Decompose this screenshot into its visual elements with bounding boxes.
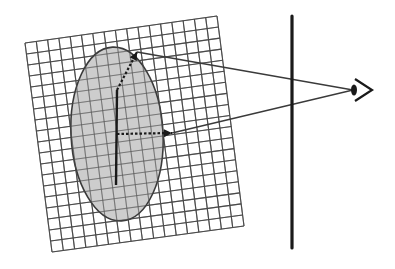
sight-ray: [137, 52, 353, 90]
horizontal-arrowhead-icon: [164, 129, 172, 137]
sight-ray: [172, 90, 353, 133]
eye-icon: [351, 79, 372, 101]
diagram-canvas: [0, 0, 395, 269]
perspective-diagram: [0, 0, 395, 269]
vertical-stem: [116, 90, 117, 185]
